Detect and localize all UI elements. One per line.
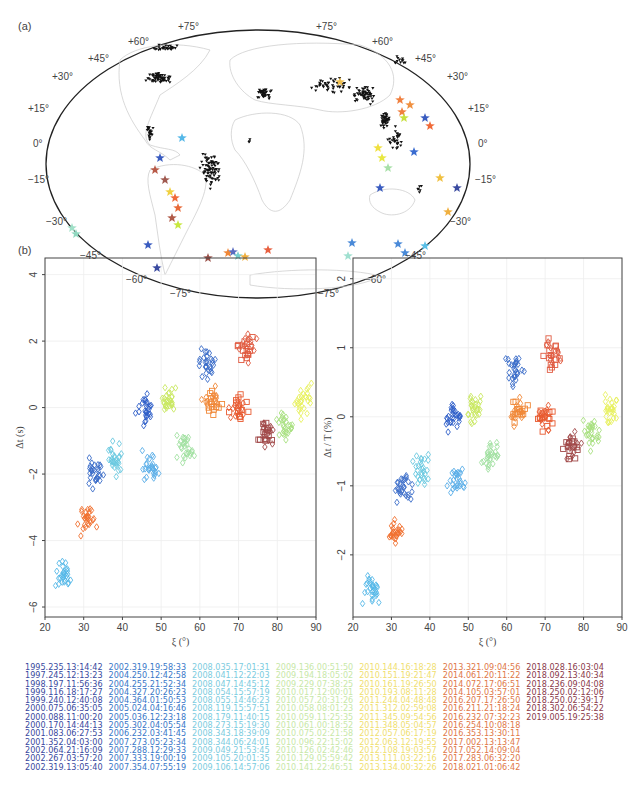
svg-text:ξ (°): ξ (°) <box>479 636 497 648</box>
svg-text:60: 60 <box>194 622 206 633</box>
svg-text:30: 30 <box>78 622 90 633</box>
scatter-plot-b: 2030405060708090−6−4−2024ξ (°)Δt (s) <box>14 258 322 648</box>
svg-text:−60°: −60° <box>126 274 147 285</box>
svg-text:−2: −2 <box>336 549 347 561</box>
svg-text:90: 90 <box>616 622 628 633</box>
svg-text:+60°: +60° <box>128 36 149 47</box>
world-map: +60°+45°+30°+15°0°−15°−30°−45°−60°−75°+6… <box>28 21 496 299</box>
legend-column: 1995.235.13:14:421997.245.12:13:231998.1… <box>25 663 103 771</box>
legend-column: 2009.136.00:51:502009.194.18:05:022009.2… <box>276 663 354 771</box>
svg-text:ξ (°): ξ (°) <box>172 636 190 648</box>
legend-column: 2010.144.16:18:282010.151.19:21:472010.1… <box>359 663 437 771</box>
svg-text:40: 40 <box>424 622 436 633</box>
legend-event-label: 2009.106.14:57:06 <box>192 763 270 771</box>
legend-event-label: 2002.319.13:05:40 <box>25 763 103 771</box>
svg-text:−75°: −75° <box>170 288 191 299</box>
svg-text:−6: −6 <box>28 601 39 613</box>
svg-text:+30°: +30° <box>52 71 73 82</box>
svg-text:0°: 0° <box>478 138 488 149</box>
legend-event-label: 2013.134.00:32:26 <box>359 763 437 771</box>
svg-text:80: 80 <box>578 622 590 633</box>
svg-text:70: 70 <box>540 622 552 633</box>
legend-event-label: 2018.021.01:06:42 <box>443 763 521 771</box>
legend-column: 2002.319.19:58:332004.250.12:42:582004.2… <box>109 663 187 771</box>
svg-text:−2: −2 <box>28 468 39 480</box>
legend-column: 2018.028.16:03:042018.092.13:40:342018.2… <box>526 663 604 771</box>
svg-text:−30°: −30° <box>450 216 471 227</box>
svg-text:Δt (s): Δt (s) <box>14 426 26 448</box>
svg-text:+75°: +75° <box>316 21 337 32</box>
svg-text:20: 20 <box>39 622 51 633</box>
svg-text:+75°: +75° <box>178 21 199 32</box>
svg-text:−15°: −15° <box>28 174 49 185</box>
svg-text:70: 70 <box>233 622 245 633</box>
svg-text:Δt / T (%): Δt / T (%) <box>322 417 334 457</box>
legend-event-label: 2010.141.22:46:51 <box>276 763 354 771</box>
legend-column: 2008.035.17:01:312008.041.12:22:032008.0… <box>192 663 270 771</box>
svg-text:−30°: −30° <box>46 216 67 227</box>
scatter-plot-c: 2030405060708090−2−1012ξ (°)Δt / T (%) <box>322 258 628 648</box>
svg-text:0: 0 <box>28 404 39 410</box>
svg-text:−4: −4 <box>28 534 39 546</box>
svg-text:−45°: −45° <box>80 250 101 261</box>
svg-text:0: 0 <box>336 414 347 420</box>
legend-column: 2013.321.09:04:562014.061.20:11:222014.0… <box>443 663 521 771</box>
legend-event-label: 2019.005.19:25:38 <box>526 713 604 721</box>
svg-text:2: 2 <box>336 275 347 281</box>
svg-text:90: 90 <box>310 622 322 633</box>
svg-text:60: 60 <box>501 622 513 633</box>
svg-text:4: 4 <box>28 271 39 277</box>
svg-text:50: 50 <box>463 622 475 633</box>
svg-text:+15°: +15° <box>468 103 489 114</box>
svg-text:+30°: +30° <box>447 71 468 82</box>
svg-text:−1: −1 <box>336 480 347 492</box>
svg-text:+45°: +45° <box>415 53 436 64</box>
svg-text:80: 80 <box>272 622 284 633</box>
svg-text:30: 30 <box>386 622 398 633</box>
svg-text:50: 50 <box>156 622 168 633</box>
svg-text:+15°: +15° <box>28 103 49 114</box>
svg-text:−60°: −60° <box>365 274 386 285</box>
svg-text:+45°: +45° <box>88 53 109 64</box>
svg-text:40: 40 <box>117 622 129 633</box>
svg-text:−75°: −75° <box>318 288 339 299</box>
svg-text:0°: 0° <box>33 138 43 149</box>
event-legend: 1995.235.13:14:421997.245.12:13:231998.1… <box>25 663 604 771</box>
svg-text:−45°: −45° <box>405 250 426 261</box>
svg-text:1: 1 <box>336 345 347 351</box>
svg-text:−15°: −15° <box>475 174 496 185</box>
svg-text:2: 2 <box>28 338 39 344</box>
svg-text:20: 20 <box>347 622 359 633</box>
legend-event-label: 2007.354.07:55:19 <box>109 763 187 771</box>
svg-text:+60°: +60° <box>372 36 393 47</box>
